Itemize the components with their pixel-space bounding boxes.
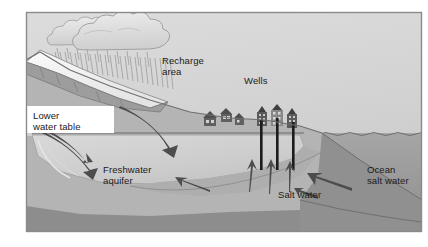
- diagram-figure: Recharge area Wells Lower water table Fr…: [0, 0, 428, 247]
- label-salt-water: Salt water: [278, 189, 321, 200]
- diagram-canvas: [26, 11, 428, 232]
- label-ocean-salt-water: Ocean salt water: [367, 164, 409, 186]
- label-wells: Wells: [244, 75, 268, 86]
- well-casing-1: [260, 120, 263, 170]
- label-lower-water-table: Lower water table: [33, 110, 81, 132]
- label-recharge-area: Recharge area: [162, 55, 204, 77]
- well-casing-3: [292, 122, 295, 170]
- label-freshwater-aquifer: Freshwater aquifer: [103, 164, 152, 186]
- well-casing-2: [276, 118, 279, 170]
